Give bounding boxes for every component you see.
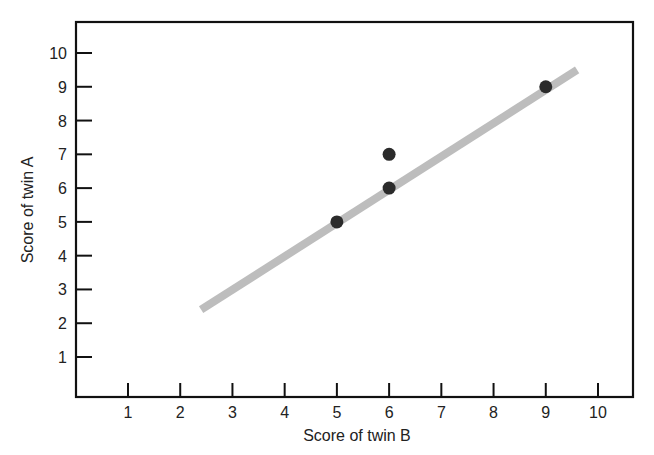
x-tick-label: 4: [280, 404, 289, 421]
y-tick-label: 8: [58, 113, 67, 130]
scatter-chart: 12345678910 12345678910: [0, 0, 654, 455]
y-tick-label: 7: [58, 146, 67, 163]
y-tick-label: 4: [58, 248, 67, 265]
y-tick-label: 5: [58, 214, 67, 231]
y-tick-label: 9: [58, 79, 67, 96]
y-tick-label: 6: [58, 180, 67, 197]
x-axis-ticks: 12345678910: [124, 383, 607, 421]
data-point: [383, 148, 396, 161]
x-tick-label: 2: [176, 404, 185, 421]
data-point: [330, 215, 343, 228]
x-tick-label: 6: [385, 404, 394, 421]
y-axis-label: Score of twin A: [19, 157, 37, 264]
x-axis-label: Score of twin B: [0, 427, 654, 445]
x-tick-label: 7: [437, 404, 446, 421]
x-tick-label: 1: [124, 404, 133, 421]
y-axis-ticks: 12345678910: [49, 45, 92, 366]
data-point: [539, 80, 552, 93]
x-tick-label: 5: [332, 404, 341, 421]
x-tick-label: 10: [589, 404, 607, 421]
y-tick-label: 10: [49, 45, 67, 62]
x-tick-label: 3: [228, 404, 237, 421]
y-tick-label: 3: [58, 281, 67, 298]
x-tick-label: 8: [489, 404, 498, 421]
y-tick-label: 1: [58, 349, 67, 366]
x-tick-label: 9: [541, 404, 550, 421]
data-point: [383, 182, 396, 195]
y-tick-label: 2: [58, 315, 67, 332]
